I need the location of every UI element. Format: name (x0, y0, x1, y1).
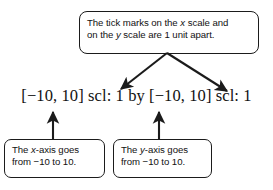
callout-x-line1-b: -axis goes (36, 144, 79, 155)
callout-x-line1-a: The (12, 144, 31, 155)
callout-top-line2-a: on the (87, 29, 116, 40)
viewing-window-expression: [−10, 10] scl: 1 by [−10, 10] scl: 1 (0, 86, 273, 106)
figure-canvas: The tick marks on the x scale and on the… (0, 0, 273, 190)
tick-marks-callout: The tick marks on the x scale and on the… (79, 11, 259, 54)
callout-y-line1-b: -axis goes (145, 144, 188, 155)
tick-marks-callout-line-1: The tick marks on the x scale and (87, 17, 252, 29)
callout-y-line1-a: The (121, 144, 140, 155)
callout-top-line1-a: The tick marks on the (87, 17, 180, 28)
y-axis-callout: The y-axis goes from −10 to 10. (113, 139, 212, 178)
tick-marks-callout-line-2: on the y scale are 1 unit apart. (87, 29, 252, 41)
y-axis-callout-line-1: The y-axis goes (121, 144, 205, 156)
x-axis-callout-line-2: from −10 to 10. (12, 156, 98, 168)
callout-top-line2-b: scale are 1 unit apart. (121, 29, 215, 40)
x-axis-callout-line-1: The x-axis goes (12, 144, 98, 156)
arrow-top-to-left-interval (121, 53, 167, 89)
y-axis-callout-line-2: from −10 to 10. (121, 156, 205, 168)
x-axis-callout: The x-axis goes from −10 to 10. (4, 139, 105, 178)
callout-top-line1-b: scale and (185, 17, 228, 28)
